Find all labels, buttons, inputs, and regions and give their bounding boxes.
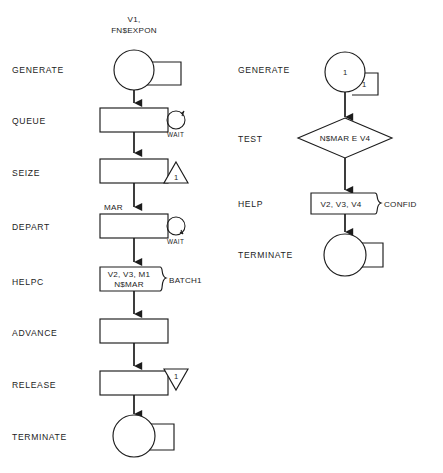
block-label-help: HELP: [238, 199, 263, 209]
helpc-inside-line2: N$MAR: [114, 280, 144, 289]
generate-circle-number-right: 1: [343, 68, 347, 77]
diagram-canvas: GENERATE V1, FN$EXPON QUEUE WAIT SEIZE 1…: [0, 0, 443, 473]
block-label-generate-left: GENERATE: [12, 65, 64, 75]
block-label-seize: SEIZE: [12, 168, 40, 178]
block-label-depart: DEPART: [12, 222, 50, 232]
generate-operand-line1: V1,: [128, 15, 141, 24]
generate-circle-left: [114, 50, 154, 90]
help-inside-line1: V2, V3, V4: [320, 200, 361, 209]
release-triangle-number: 1: [174, 372, 178, 381]
queue-rect: [100, 108, 168, 132]
block-label-terminate-right: TERMINATE: [238, 250, 293, 260]
depart-rect: [100, 214, 168, 238]
release-rect: [100, 371, 168, 395]
depart-side-label: WAIT: [167, 238, 184, 245]
advance-rect: [100, 319, 168, 343]
queue-loop-circle: [167, 111, 185, 129]
seize-rect: [100, 159, 168, 183]
generate-operand-line2: FN$EXPON: [111, 26, 157, 35]
block-label-generate-right: GENERATE: [238, 65, 290, 75]
helpc-inside-line1: V2, V3, M1: [108, 270, 151, 279]
block-label-terminate-left: TERMINATE: [12, 432, 67, 442]
helpc-side-label: BATCH1: [169, 276, 202, 285]
queue-side-label: WAIT: [167, 131, 184, 138]
help-side-label: CONFID: [384, 200, 417, 209]
block-label-release: RELEASE: [12, 380, 56, 390]
terminate-circle-right: [324, 234, 366, 276]
block-label-helpc: HELPC: [12, 277, 44, 287]
depart-above-text: MAR: [104, 203, 123, 212]
terminate-circle-left: [113, 415, 155, 457]
gpss-block-diagram: GENERATE V1, FN$EXPON QUEUE WAIT SEIZE 1…: [0, 0, 443, 473]
test-condition-text: N$MAR E V4: [320, 134, 371, 143]
block-label-queue: QUEUE: [12, 116, 46, 126]
block-label-test: TEST: [238, 134, 263, 144]
seize-triangle-number: 1: [174, 173, 178, 182]
block-label-advance: ADVANCE: [12, 328, 57, 338]
